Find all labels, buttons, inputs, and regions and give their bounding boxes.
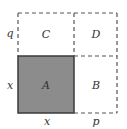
region-a-label: A [41, 79, 50, 92]
side-label-p: p [92, 115, 99, 128]
area-diagram: C D A B q x x p [0, 0, 127, 129]
region-b-label: B [91, 79, 100, 92]
region-d-label: D [91, 28, 101, 41]
side-label-x-bottom: x [44, 115, 51, 128]
side-label-q: q [6, 27, 13, 40]
region-c-label: C [42, 28, 51, 41]
side-label-x-left: x [7, 79, 14, 92]
